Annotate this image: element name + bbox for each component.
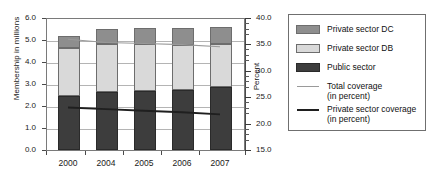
x-axis-tick <box>199 151 200 155</box>
legend-label: Private sector DC <box>327 24 394 34</box>
legend-label: Private sector DB <box>327 43 393 53</box>
axis-tick-right-minor <box>245 29 249 30</box>
line-total-coverage <box>68 39 220 46</box>
legend-swatch-private-dc-icon <box>296 25 320 34</box>
legend-item-private-sector-coverage: Private sector coverage (in percent) <box>296 104 416 124</box>
y-tick-left-2: 2.0 <box>25 102 36 110</box>
axis-tick-right-minor <box>245 108 249 109</box>
legend-label-block: Total coverage (in percent) <box>327 81 382 101</box>
legend-swatch-private-db-icon <box>296 44 320 53</box>
y-tick-left-6: 6.0 <box>25 14 36 22</box>
chart-figure: Membership in millions Percent 6.0 5.0 4… <box>0 0 431 178</box>
legend-label-sub: (in percent) <box>327 91 370 101</box>
legend-label: Total coverage <box>327 81 382 91</box>
y-tick-right-35: 35.0 <box>256 40 272 48</box>
legend-line-private-icon <box>296 105 320 114</box>
line-series-overlay <box>46 18 245 151</box>
axis-tick-right-minor <box>245 34 249 35</box>
axis-tick-right-minor <box>245 81 249 82</box>
y-tick-left-3: 3.0 <box>25 80 36 88</box>
axis-tick-right-minor <box>245 55 249 56</box>
x-axis-tick <box>46 151 47 155</box>
axis-tick-right <box>245 124 251 125</box>
right-axis-spine <box>245 18 246 151</box>
axis-tick-right-minor <box>245 87 249 88</box>
x-axis-tick <box>85 151 86 155</box>
legend-item-private-sector-dc: Private sector DC <box>296 24 394 34</box>
legend: Private sector DC Private sector DB Publ… <box>288 14 426 131</box>
axis-tick-right-minor <box>245 23 249 24</box>
legend-line-total-icon <box>296 82 320 91</box>
x-axis-tick <box>123 151 124 155</box>
y-axis-right-ticks: 40.0 35.0 30.0 25.0 20.0 15.0 <box>256 0 286 178</box>
axis-tick-right-minor <box>245 129 249 130</box>
y-tick-right-25: 25.0 <box>256 93 272 101</box>
legend-label-block: Private sector coverage (in percent) <box>327 104 416 124</box>
axis-tick-right <box>245 18 251 19</box>
axis-tick-right-minor <box>245 60 249 61</box>
legend-swatch-public-icon <box>296 63 320 72</box>
axis-tick-right-minor <box>245 76 249 77</box>
y-tick-left-1: 1.0 <box>25 124 36 132</box>
legend-label: Private sector coverage <box>327 104 416 114</box>
y-axis-left-ticks: 6.0 5.0 4.0 3.0 2.0 1.0 0.0 <box>0 0 36 178</box>
line-private-sector-coverage <box>68 108 220 115</box>
axis-tick-right <box>245 44 251 45</box>
y-tick-right-20: 20.0 <box>256 120 272 128</box>
axis-tick-right-minor <box>245 49 249 50</box>
legend-label-sub: (in percent) <box>327 114 370 124</box>
y-tick-left-5: 5.0 <box>25 36 36 44</box>
legend-label: Public sector <box>327 62 376 72</box>
axis-tick-right <box>245 71 251 72</box>
y-tick-right-15: 15.0 <box>256 146 272 154</box>
x-axis-tick <box>161 151 162 155</box>
y-tick-right-30: 30.0 <box>256 67 272 75</box>
y-tick-right-40: 40.0 <box>256 14 272 22</box>
y-tick-left-4: 4.0 <box>25 58 36 66</box>
legend-item-total-coverage: Total coverage (in percent) <box>296 81 382 101</box>
y-tick-left-0: 0.0 <box>25 146 36 154</box>
axis-tick-right-minor <box>245 140 249 141</box>
legend-item-public-sector: Public sector <box>296 62 376 72</box>
axis-tick-right-minor <box>245 113 249 114</box>
x-label-2007: 2007 <box>197 158 243 168</box>
x-axis-tick <box>245 151 246 155</box>
legend-item-private-sector-db: Private sector DB <box>296 43 393 53</box>
axis-tick-right-minor <box>245 134 249 135</box>
axis-tick-right <box>245 97 251 98</box>
axis-tick-right-minor <box>245 102 249 103</box>
